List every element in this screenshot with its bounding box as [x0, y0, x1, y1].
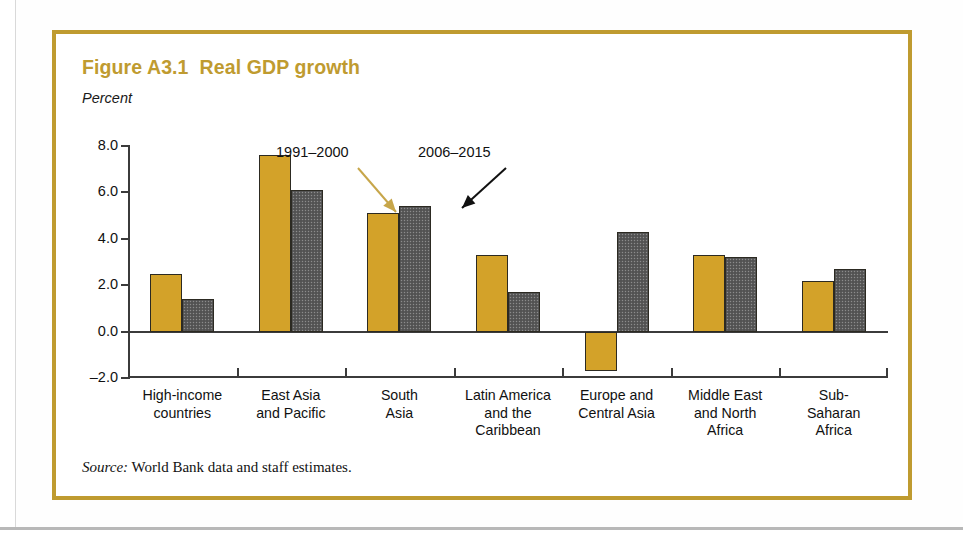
x-axis-tick-label-line: Saharan — [773, 405, 894, 423]
x-axis-tick-label-line: Europe and — [556, 387, 677, 405]
bar-series2 — [182, 299, 214, 331]
bar-series2 — [399, 206, 431, 331]
x-axis-tick-label-line: Africa — [773, 422, 894, 440]
bar-series1 — [802, 281, 834, 332]
bar-series2 — [291, 190, 323, 332]
x-axis-tick-label: SouthAsia — [339, 387, 460, 422]
source-label: Source: — [82, 459, 128, 475]
x-axis-tick — [454, 368, 456, 377]
x-axis-tick-label-line: East Asia — [231, 387, 352, 405]
bar-series1 — [259, 155, 291, 331]
bar-series2 — [617, 232, 649, 332]
x-axis-tick — [671, 368, 673, 377]
bar-series1 — [476, 255, 508, 332]
page-left-margin — [0, 0, 16, 547]
x-axis-tick-label: Latin Americaand theCaribbean — [448, 387, 569, 440]
bar-series1 — [585, 332, 617, 371]
x-axis-tick-label-line: Sub- — [773, 387, 894, 405]
x-axis-tick-label: Sub-SaharanAfrica — [773, 387, 894, 440]
y-axis-tick — [121, 284, 130, 286]
x-axis-right-cap — [886, 368, 888, 376]
x-axis-tick-label-line: and North — [665, 405, 786, 423]
x-axis-tick-label-line: High-income — [122, 387, 243, 405]
bar-series1 — [367, 213, 399, 331]
callout-arrows — [128, 146, 888, 378]
x-axis-tick-label-line: Asia — [339, 405, 460, 423]
y-axis-tick-label: 2.0 — [62, 276, 118, 292]
x-axis-line — [128, 376, 888, 378]
source-value: World Bank data and staff estimates. — [128, 459, 352, 475]
y-axis-tick — [121, 145, 130, 147]
x-axis-tick-label-line: South — [339, 387, 460, 405]
x-axis-tick — [237, 368, 239, 377]
series1-callout-arrow — [358, 168, 396, 212]
bar-series1 — [150, 274, 182, 332]
x-axis-tick-label-line: and Pacific — [231, 405, 352, 423]
x-axis-tick-label-line: Middle East — [665, 387, 786, 405]
page-canvas: Figure A3.1 Real GDP growth Percent 8.06… — [0, 0, 963, 547]
x-axis-tick-label: Middle Eastand NorthAfrica — [665, 387, 786, 440]
x-axis-tick — [779, 368, 781, 377]
x-axis-tick — [562, 368, 564, 377]
y-axis-tick-label: –2.0 — [62, 369, 118, 385]
y-axis-tick — [121, 191, 130, 193]
x-axis-tick-label-line: and the — [448, 405, 569, 423]
x-axis-tick-label: East Asiaand Pacific — [231, 387, 352, 422]
x-axis-tick-label-line: Latin America — [448, 387, 569, 405]
y-axis-tick-label: 4.0 — [62, 230, 118, 246]
bar-series2 — [725, 257, 757, 331]
x-axis-tick-label: Europe andCentral Asia — [556, 387, 677, 422]
bar-series2 — [834, 269, 866, 332]
source-note: Source: World Bank data and staff estima… — [82, 459, 352, 476]
x-axis-left-cap — [128, 368, 130, 376]
x-axis-tick-label: High-incomecountries — [122, 387, 243, 422]
y-axis-tick — [121, 238, 130, 240]
x-axis-tick-label-line: Caribbean — [448, 422, 569, 440]
x-axis-tick-label-line: countries — [122, 405, 243, 423]
series2-callout-arrow — [462, 168, 506, 208]
series1-callout-label: 1991–2000 — [276, 144, 349, 160]
series2-callout-label: 2006–2015 — [418, 144, 491, 160]
plot-area — [128, 146, 888, 378]
y-axis-tick-label: 0.0 — [62, 323, 118, 339]
figure-panel: Figure A3.1 Real GDP growth Percent 8.06… — [52, 30, 912, 500]
x-axis-tick-label-line: Central Asia — [556, 405, 677, 423]
figure-title: Figure A3.1 Real GDP growth — [82, 56, 360, 79]
y-axis-unit-label: Percent — [82, 90, 132, 106]
page-bottom-margin — [0, 530, 963, 547]
x-axis-tick — [345, 368, 347, 377]
bar-series1 — [693, 255, 725, 332]
y-axis-tick-label: 8.0 — [62, 137, 118, 153]
y-axis-tick-labels: 8.06.04.02.00.0–2.0 — [56, 146, 118, 378]
y-axis-tick-label: 6.0 — [62, 183, 118, 199]
bar-series2 — [508, 292, 540, 331]
x-axis-tick-label-line: Africa — [665, 422, 786, 440]
